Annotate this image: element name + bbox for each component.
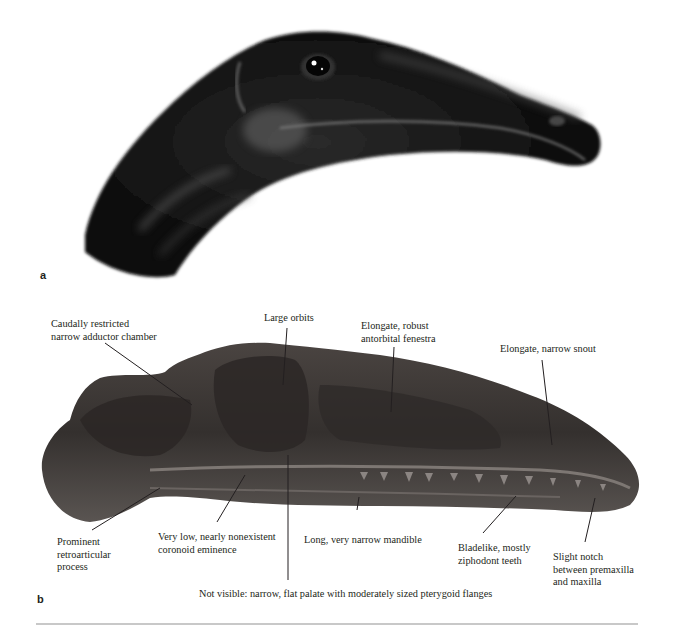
label-antorbital-fenestra: Elongate, robust antorbital fenestra [361, 320, 436, 345]
panel-label-b: b [37, 593, 44, 605]
label-adductor-chamber: Caudally restricted narrow adductor cham… [51, 318, 157, 343]
label-retroarticular-process: Prominent retroarticular process [57, 536, 111, 574]
label-coronoid-eminence: Very low, nearly nonexistent coronoid em… [158, 531, 276, 556]
label-ziphodont-teeth: Bladelike, mostly ziphodont teeth [458, 542, 531, 567]
label-narrow-mandible: Long, very narrow mandible [304, 534, 422, 547]
label-premaxilla-notch: Slight notch between premaxilla and maxi… [553, 551, 634, 589]
bottom-divider [36, 623, 638, 625]
label-large-orbits: Large orbits [264, 312, 314, 325]
label-narrow-snout: Elongate, narrow snout [500, 343, 596, 356]
label-palate: Not visible: narrow, flat palate with mo… [199, 588, 492, 601]
